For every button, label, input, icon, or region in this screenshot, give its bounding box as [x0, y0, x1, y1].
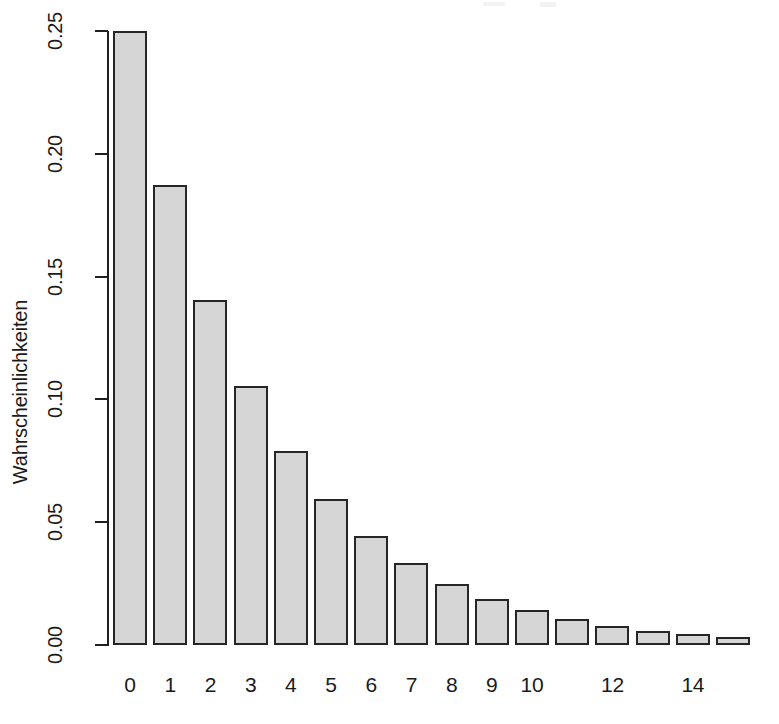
bar-chart: Wahrscheinlichkeiten 0.000.050.100.150.2…: [0, 0, 779, 724]
bar: [153, 185, 187, 646]
bar: [234, 386, 268, 645]
bar: [354, 536, 388, 645]
bar: [314, 499, 348, 645]
x-axis-tick-label: 9: [486, 672, 497, 698]
bar: [193, 300, 227, 645]
bar: [435, 584, 469, 645]
x-axis-tick-label: 12: [601, 672, 624, 698]
x-axis-tick-label: 8: [446, 672, 457, 698]
x-axis-tick-label: 6: [365, 672, 376, 698]
x-axis-tick-label: 0: [124, 672, 135, 698]
x-axis-tick-label: 2: [205, 672, 216, 698]
x-axis-tick-label: 7: [406, 672, 417, 698]
bar: [636, 631, 670, 645]
x-axis-tick-label: 14: [681, 672, 704, 698]
bar: [475, 599, 509, 645]
bar: [716, 637, 750, 645]
x-axis-tick-label: 5: [325, 672, 336, 698]
bar: [394, 563, 428, 645]
bar: [595, 626, 629, 645]
bar: [676, 634, 710, 645]
x-axis-tick-label: 3: [245, 672, 256, 698]
bar: [555, 619, 589, 645]
x-axis-tick-label: 1: [164, 672, 175, 698]
bars-group: [0, 0, 779, 724]
bar: [515, 610, 549, 645]
bar: [113, 31, 147, 645]
bar: [274, 451, 308, 645]
x-axis-tick-label: 4: [285, 672, 296, 698]
x-axis-tick-label: 10: [521, 672, 544, 698]
